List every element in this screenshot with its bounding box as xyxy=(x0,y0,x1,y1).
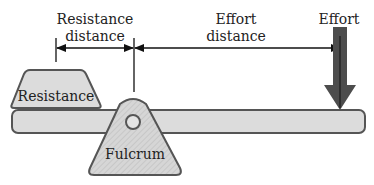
resistance-distance-label-2: distance xyxy=(65,28,125,44)
effort-label: Effort xyxy=(319,11,360,27)
fulcrum-pivot-icon xyxy=(126,115,140,129)
lever-diagram: Resistance Fulcrum Resistance distance E… xyxy=(0,0,374,185)
effort-distance-label-2: distance xyxy=(206,28,266,44)
effort-distance-label-1: Effort xyxy=(216,11,257,27)
resistance-distance-label-1: Resistance xyxy=(57,11,134,27)
fulcrum-label: Fulcrum xyxy=(105,146,165,162)
lever-beam xyxy=(12,110,365,133)
resistance-block-label: Resistance xyxy=(18,88,95,104)
